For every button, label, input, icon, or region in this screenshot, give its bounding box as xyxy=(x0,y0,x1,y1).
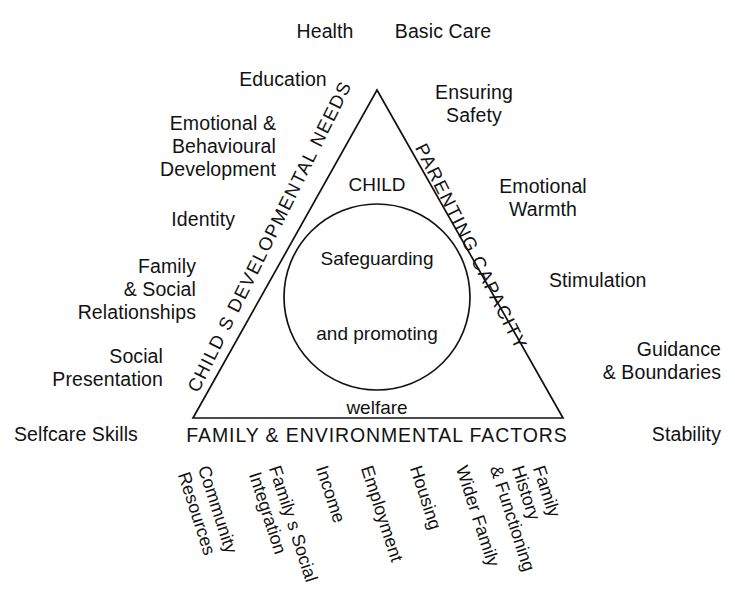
label-line: Basic Care xyxy=(395,20,491,43)
parenting-capacity-label-emotional: EmotionalWarmth xyxy=(499,175,587,221)
developmental-need-label-emotional: Emotional &BehaviouralDevelopment xyxy=(160,112,276,181)
label-line: Social xyxy=(52,345,163,368)
centre-circle-text: CHILD Safeguarding and promoting welfare xyxy=(316,124,437,470)
parenting-capacity-label-stimulation: Stimulation xyxy=(549,269,647,292)
parenting-capacity-label-basic-care: Basic Care xyxy=(395,20,491,43)
developmental-need-label-education: Education xyxy=(239,68,327,91)
parenting-capacity-label-guidance: Guidance& Boundaries xyxy=(603,338,721,384)
label-line: Guidance xyxy=(603,338,721,361)
label-line: Ensuring xyxy=(435,81,513,104)
developmental-need-label-identity: Identity xyxy=(171,208,235,231)
parenting-capacity-label-ensuring: EnsuringSafety xyxy=(435,81,513,127)
label-line: & Boundaries xyxy=(603,361,721,384)
label-line: Stimulation xyxy=(549,269,647,292)
label-line: & Social xyxy=(78,278,196,301)
centre-line-2: Safeguarding xyxy=(316,248,437,273)
centre-line-4: welfare xyxy=(316,396,437,421)
label-line: Selfcare Skills xyxy=(14,423,138,446)
developmental-need-label-selfcare-skills: Selfcare Skills xyxy=(14,423,138,446)
label-line: Behavioural xyxy=(160,135,276,158)
developmental-need-label-health: Health xyxy=(297,20,354,43)
label-line: Education xyxy=(239,68,327,91)
developmental-need-label-family: Family& SocialRelationships xyxy=(78,255,196,324)
label-line: Identity xyxy=(171,208,235,231)
label-line: Safety xyxy=(435,104,513,127)
label-line: Family xyxy=(78,255,196,278)
assessment-framework-diagram: CHILD Safeguarding and promoting welfare… xyxy=(0,0,735,603)
label-line: Relationships xyxy=(78,301,196,324)
label-line: Warmth xyxy=(499,198,587,221)
developmental-need-label-social: SocialPresentation xyxy=(52,345,163,391)
parenting-capacity-label-stability: Stability xyxy=(652,423,721,446)
label-line: Development xyxy=(160,158,276,181)
label-line: Presentation xyxy=(52,368,163,391)
centre-line-1: CHILD xyxy=(316,174,437,199)
label-line: Health xyxy=(297,20,354,43)
label-line: Stability xyxy=(652,423,721,446)
label-line: Emotional & xyxy=(160,112,276,135)
label-line: Emotional xyxy=(499,175,587,198)
base-heading-family-environmental-factors: FAMILY & ENVIRONMENTAL FACTORS xyxy=(186,424,567,447)
centre-line-3: and promoting xyxy=(316,322,437,347)
